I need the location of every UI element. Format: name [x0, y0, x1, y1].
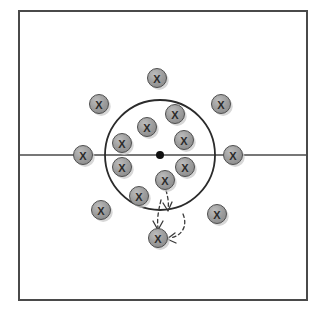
- marker-label: X: [153, 73, 161, 85]
- marker-label: X: [229, 150, 237, 162]
- marker-label: X: [79, 150, 87, 162]
- diagram-canvas: XXXXXXXXXXXXXXXX: [0, 0, 317, 315]
- marker-label: X: [95, 99, 103, 111]
- marker-label: X: [118, 138, 126, 150]
- marker-label: X: [180, 135, 188, 147]
- marker-label: X: [171, 109, 179, 121]
- marker-label: X: [135, 191, 143, 203]
- marker-label: X: [181, 162, 189, 174]
- marker-label: X: [213, 209, 221, 221]
- marker-label: X: [217, 99, 225, 111]
- marker-label: X: [161, 175, 169, 187]
- marker-label: X: [154, 233, 162, 245]
- marker-label: X: [118, 162, 126, 174]
- center-spot: [156, 151, 164, 159]
- play-diagram: XXXXXXXXXXXXXXXX: [0, 0, 317, 315]
- marker-label: X: [97, 205, 105, 217]
- marker-label: X: [143, 122, 151, 134]
